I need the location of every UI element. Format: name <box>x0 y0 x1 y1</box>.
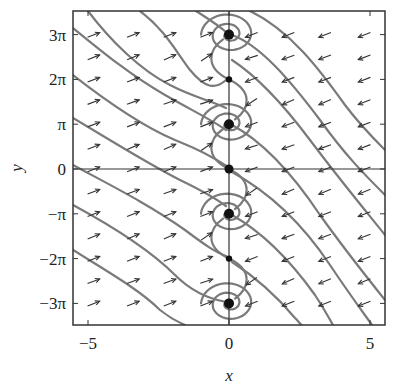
y-tick-label: −π <box>48 205 67 224</box>
spiral-point <box>224 119 234 129</box>
y-tick-label: −2π <box>39 250 66 269</box>
spiral-point <box>224 298 234 308</box>
x-tick-label: −5 <box>79 334 97 353</box>
trajectory <box>73 75 228 167</box>
spiral-point <box>224 30 234 40</box>
trajectory <box>73 250 185 325</box>
saddle-point <box>225 165 234 174</box>
saddle-point <box>226 255 232 261</box>
trajectory <box>73 165 226 256</box>
saddle-point <box>226 76 232 82</box>
y-axis-label: y <box>7 164 26 174</box>
trajectory <box>73 205 226 302</box>
trajectory <box>250 11 385 150</box>
trajectory <box>232 172 372 325</box>
trajectory <box>211 129 229 169</box>
x-tick-label: 0 <box>225 334 234 353</box>
x-tick-label: 5 <box>366 334 375 353</box>
y-tick-label: 0 <box>58 160 67 179</box>
y-tick-label: 3π <box>49 26 67 45</box>
y-tick-label: 2π <box>49 70 67 89</box>
y-tick-label: π <box>57 115 66 134</box>
x-axis-label: x <box>224 366 233 385</box>
trajectory <box>211 39 229 79</box>
trajectory <box>211 219 229 259</box>
phase-portrait: −5053π2ππ0−π−2π−3π x y <box>0 0 393 388</box>
spiral-point <box>224 209 234 219</box>
y-tick-label: −3π <box>39 294 66 313</box>
trajectory <box>232 215 333 325</box>
